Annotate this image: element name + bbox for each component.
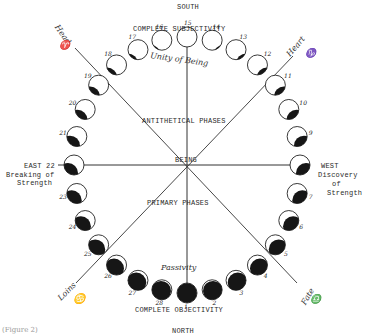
phase-number-14: 14	[212, 23, 220, 30]
phase-number-4: 4	[264, 272, 268, 279]
phase-number-10: 10	[299, 99, 307, 106]
phase-number-25: 25	[84, 250, 92, 257]
east-sub-line-2: Strength	[17, 179, 52, 187]
phase-number-28: 28	[156, 299, 164, 306]
phase-number-24: 24	[69, 223, 77, 230]
phase-number-6: 6	[299, 223, 303, 230]
east-sub-line-1: Breaking of	[6, 171, 54, 179]
phase-number-3: 3	[240, 289, 244, 296]
phase-moon-8	[290, 155, 316, 183]
being-label: BEING	[175, 156, 197, 164]
phase-number-17: 17	[128, 33, 136, 40]
phase-number-2: 2	[212, 299, 216, 306]
phase-number-7: 7	[309, 193, 313, 200]
heart-sign-icon: ♑	[305, 48, 316, 58]
loins-sign-icon: ♋	[73, 293, 85, 304]
phase-number-1: 1	[184, 303, 188, 310]
phase-moon-2	[202, 280, 223, 301]
east-label: EAST 22	[24, 162, 55, 170]
phase-moon-28	[151, 280, 172, 301]
west-sub-line-2: of	[332, 180, 341, 188]
phase-number-19: 19	[84, 72, 92, 79]
passivity-label: Passivity	[161, 263, 196, 272]
complete-objectivity-label: COMPLETE OBJECTIVITY	[135, 306, 223, 314]
antithetical-phases-label: ANTITHETICAL PHASES	[142, 117, 226, 125]
phase-number-13: 13	[240, 33, 248, 40]
phase-number-21: 21	[59, 129, 67, 136]
phase-number-11: 11	[284, 72, 292, 79]
west-sub-line-1: Discovery	[318, 171, 358, 179]
phase-number-20: 20	[69, 99, 77, 106]
head-sign-icon: ♈	[59, 40, 70, 50]
fate-sign-icon: ♎	[310, 294, 321, 304]
south-label: SOUTH	[177, 3, 199, 11]
west-sub-line-3: Strength	[327, 189, 362, 197]
phase-number-5: 5	[284, 250, 288, 257]
phase-number-15: 15	[184, 19, 192, 26]
phase-number-26: 26	[104, 272, 112, 279]
west-label: WEST	[321, 162, 339, 170]
phase-number-18: 18	[104, 50, 112, 57]
phase-moon-1	[177, 283, 197, 303]
phase-moon-3	[226, 270, 248, 292]
primary-phases-label: PRIMARY PHASES	[147, 199, 209, 207]
figure-caption: (Figure 2)	[2, 326, 38, 334]
phase-number-23: 23	[59, 193, 67, 200]
phase-number-16: 16	[156, 23, 164, 30]
phase-number-27: 27	[128, 289, 136, 296]
diagonal-heart-loins-line	[76, 56, 293, 283]
phase-moon-22	[58, 155, 84, 183]
phase-number-12: 12	[264, 50, 272, 57]
north-label: NORTH	[172, 327, 194, 335]
phase-number-9: 9	[309, 129, 313, 136]
